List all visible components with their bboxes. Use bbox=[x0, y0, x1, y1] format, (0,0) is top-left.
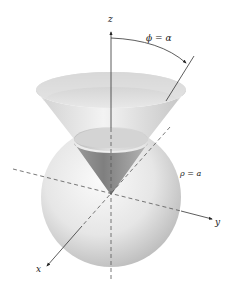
z-axis-label: z bbox=[107, 14, 113, 24]
y-axis-label: y bbox=[214, 217, 221, 227]
sphere-label: ρ = a bbox=[179, 169, 201, 178]
x-axis-label: x bbox=[36, 264, 41, 274]
diagram-canvas: z y x ϕ = α ρ = a bbox=[0, 0, 228, 296]
angle-label: ϕ = α bbox=[146, 33, 171, 43]
y-axis-line bbox=[181, 211, 212, 219]
